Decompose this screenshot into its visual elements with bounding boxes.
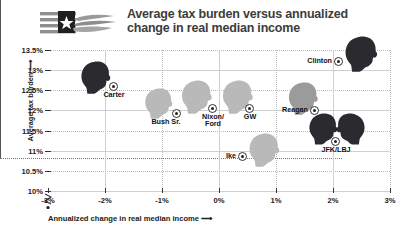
x-axis-tick-label: 2% — [313, 196, 353, 205]
data-point-label: JFK/LBJ — [319, 146, 353, 154]
data-point-label: Bush Sr. — [146, 118, 186, 126]
x-axis-tick-label: -2% — [85, 196, 125, 205]
data-point-label-line: Carter — [97, 91, 131, 99]
y-axis-tick — [45, 151, 51, 152]
x-axis-tick — [105, 188, 106, 193]
title-line-1: Average tax burden versus annualized — [127, 8, 397, 22]
data-point-label-line: Reagan — [272, 106, 308, 114]
data-point-label: Carter — [97, 91, 131, 99]
data-point-label-line: Ford — [196, 120, 230, 127]
x-axis-title-text: Annualized change in real median income — [48, 214, 199, 223]
x-axis-title: Annualized change in real median income … — [48, 214, 328, 223]
data-point-label-line: GW — [233, 113, 267, 121]
data-point-label: Reagan — [272, 106, 308, 114]
y-axis-tick — [45, 70, 51, 71]
y-axis-tick-label: 13.5% — [2, 46, 43, 55]
y-axis-arrow-icon: ⟶ — [26, 60, 35, 71]
data-point-label-line: Clinton — [296, 57, 332, 65]
y-axis-tick-label: 13% — [2, 66, 43, 75]
x-axis-arrow-icon: ⟶ — [201, 214, 212, 223]
y-axis-tick — [45, 110, 51, 111]
president-head-silhouette — [336, 113, 366, 149]
page-title: Average tax burden versus annualized cha… — [127, 8, 397, 35]
data-point-label: GW — [233, 113, 267, 121]
title-line-2: change in real median income — [127, 22, 397, 36]
gridline-vertical — [390, 50, 391, 191]
y-axis-tick-label: 11.5% — [2, 127, 43, 136]
y-axis-tick — [45, 90, 51, 91]
chart-canvas: Average tax burden versus annualized cha… — [0, 0, 407, 240]
x-axis-tick-label: 0% — [199, 196, 239, 205]
x-axis-tick-label: -3% — [28, 196, 68, 205]
y-axis-tick-label: 11% — [2, 147, 43, 156]
x-axis-tick-label: 1% — [256, 196, 296, 205]
x-axis-tick — [276, 188, 277, 193]
president-head-silhouette — [248, 133, 280, 171]
y-axis-title: Average tax burden ⟶ — [26, 41, 35, 161]
data-point-label: Ike — [200, 152, 236, 160]
x-axis-tick-label: 3% — [370, 196, 407, 205]
y-axis-tick — [45, 50, 51, 51]
y-axis-tick — [45, 171, 51, 172]
data-point-label-line: Bush Sr. — [146, 118, 186, 126]
x-axis-tick — [162, 188, 163, 193]
data-point-marker[interactable] — [238, 152, 247, 161]
y-axis-tick — [45, 131, 51, 132]
y-axis-title-text: Average tax burden — [26, 73, 35, 142]
x-axis-tick — [390, 188, 391, 193]
flag-hand-logo — [40, 9, 118, 37]
president-head-silhouette — [344, 36, 378, 76]
y-axis-tick-label: 12.5% — [2, 86, 43, 95]
y-axis-tick-label: 12% — [2, 106, 43, 115]
x-axis-tick — [333, 188, 334, 193]
x-axis-line — [0, 158, 342, 159]
data-point-label: Clinton — [296, 57, 332, 65]
y-axis-tick-label: 10% — [2, 187, 43, 196]
x-axis-tick — [48, 188, 49, 193]
x-axis-tick-label: -1% — [142, 196, 182, 205]
x-axis-tick — [219, 188, 220, 193]
data-point-marker[interactable] — [334, 57, 343, 66]
flag-hand-logo-svg — [40, 9, 118, 37]
data-point-label-line: Ike — [200, 152, 236, 160]
data-point-label-line: JFK/LBJ — [319, 146, 353, 154]
y-axis-tick-label: 10.5% — [2, 167, 43, 176]
